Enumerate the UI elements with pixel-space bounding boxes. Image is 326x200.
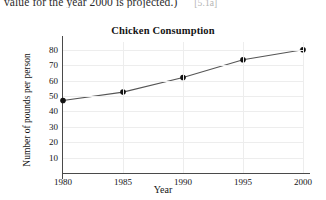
y-axis-tick-label: 30 [49,122,58,131]
chart-title: Chicken Consumption [0,25,326,36]
y-axis-tick-label: 50 [49,91,58,100]
y-axis-tick-label: 60 [49,76,58,85]
y-axis-label-text: Number of pounds per person [20,40,34,180]
clipped-body-text: value for the year 2000 is projected.) [… [0,0,326,8]
screenshot-root: value for the year 2000 is projected.) [… [0,0,326,200]
gridline-vertical [243,42,244,173]
y-axis-tick-label: 80 [49,45,58,54]
y-axis-tick-label: 70 [49,61,58,70]
body-text-sentence: value for the year 2000 is projected.) [0,0,177,8]
data-point-marker [60,98,66,104]
y-axis-tick-label: 20 [49,138,58,147]
plot-area: 102030405060708019801985199019952000 [63,42,303,173]
x-axis-label: Year [0,184,326,195]
x-axis-spine [62,173,310,174]
y-axis-label: Number of pounds per person [20,40,34,180]
gridline-vertical [303,42,304,173]
y-axis-tick-label: 10 [49,153,58,162]
reference-tag: [5.1a] [194,0,217,8]
gridline-vertical [183,42,184,173]
gridline-vertical [123,42,124,173]
y-axis-tick-label: 40 [49,107,58,116]
